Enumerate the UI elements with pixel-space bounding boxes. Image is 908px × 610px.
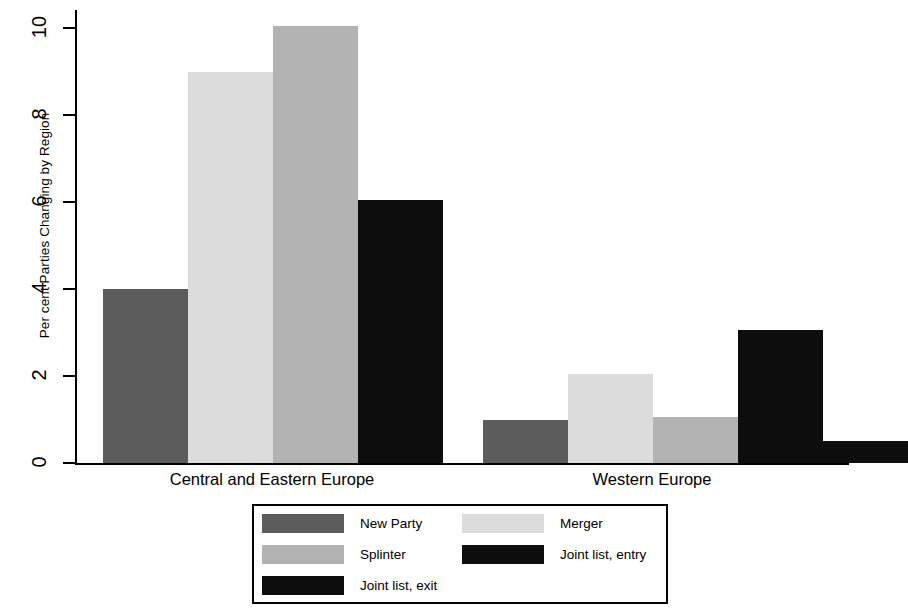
legend-label: New Party bbox=[360, 516, 422, 531]
y-tick-mark bbox=[63, 288, 76, 290]
legend-label: Merger bbox=[560, 516, 603, 531]
y-tick-label: 10 bbox=[29, 10, 49, 44]
y-tick-label: 4 bbox=[29, 271, 49, 305]
legend-entry: Splinter bbox=[262, 545, 406, 564]
legend-entry: Merger bbox=[462, 514, 603, 533]
bar bbox=[188, 72, 273, 464]
legend-swatch bbox=[462, 514, 544, 533]
y-tick-mark bbox=[63, 114, 76, 116]
legend-label: Joint list, exit bbox=[360, 578, 437, 593]
y-tick-mark bbox=[63, 27, 76, 29]
legend-swatch bbox=[262, 514, 344, 533]
y-tick-mark bbox=[63, 462, 76, 464]
legend-swatch bbox=[262, 545, 344, 564]
y-tick-mark bbox=[63, 201, 76, 203]
legend: New PartyMergerSplinterJoint list, entry… bbox=[252, 504, 668, 604]
bar bbox=[823, 441, 908, 463]
bar bbox=[653, 417, 738, 463]
x-axis-category-label: Central and Eastern Europe bbox=[112, 470, 432, 489]
bar bbox=[738, 330, 823, 463]
legend-entry: Joint list, entry bbox=[462, 545, 646, 564]
bar bbox=[358, 200, 443, 463]
legend-label: Joint list, entry bbox=[560, 547, 646, 562]
bar bbox=[483, 420, 568, 464]
bar bbox=[273, 26, 358, 463]
y-tick-mark bbox=[63, 375, 76, 377]
legend-label: Splinter bbox=[360, 547, 406, 562]
bar bbox=[103, 289, 188, 463]
plot-area bbox=[77, 10, 849, 463]
legend-entry: New Party bbox=[262, 514, 422, 533]
legend-swatch bbox=[262, 576, 344, 595]
y-tick-label: 6 bbox=[29, 184, 49, 218]
y-tick-label: 0 bbox=[29, 445, 49, 479]
x-axis-line bbox=[75, 463, 849, 465]
bar bbox=[568, 374, 653, 463]
y-tick-label: 2 bbox=[29, 358, 49, 392]
legend-entry: Joint list, exit bbox=[262, 576, 437, 595]
x-axis-category-label: Western Europe bbox=[492, 470, 812, 489]
legend-swatch bbox=[462, 545, 544, 564]
y-tick-label: 8 bbox=[29, 97, 49, 131]
